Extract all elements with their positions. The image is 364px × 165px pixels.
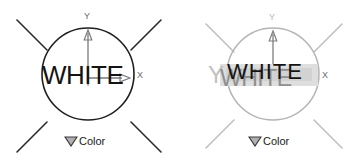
ray-bottom-right	[131, 122, 161, 152]
x-axis-label-right: X	[322, 71, 328, 80]
x-axis-label-left: X	[137, 71, 143, 80]
ray-top-left	[17, 20, 47, 50]
ray-bottom-left	[206, 120, 234, 148]
color-dropdown-label-right: Color	[263, 136, 289, 147]
ray-bottom-right	[314, 120, 342, 148]
ray-top-right	[314, 24, 342, 52]
y-axis-label-left: Y	[84, 12, 90, 21]
ray-top-right	[131, 20, 161, 50]
light-gizmo-panel-normal[interactable]: Y X WHITE Color	[0, 0, 182, 165]
ray-top-left	[206, 24, 234, 52]
ray-bottom-left	[17, 122, 47, 152]
light-gizmo-panel-editing[interactable]: Y WHITE WHITE Y X Color	[182, 0, 364, 165]
color-dropdown-label-left: Color	[79, 136, 105, 147]
y-axis-label-right: Y	[269, 13, 275, 22]
light-color-value-left[interactable]: WHITE	[42, 62, 123, 88]
triangle-down-icon[interactable]	[248, 136, 262, 147]
light-color-value-right[interactable]: WHITE	[227, 61, 303, 83]
screenshot-canvas: Y X WHITE Color	[0, 0, 364, 165]
triangle-down-icon[interactable]	[64, 136, 78, 147]
color-dropdown-left[interactable]: Color	[64, 136, 105, 147]
color-dropdown-right[interactable]: Color	[248, 136, 289, 147]
